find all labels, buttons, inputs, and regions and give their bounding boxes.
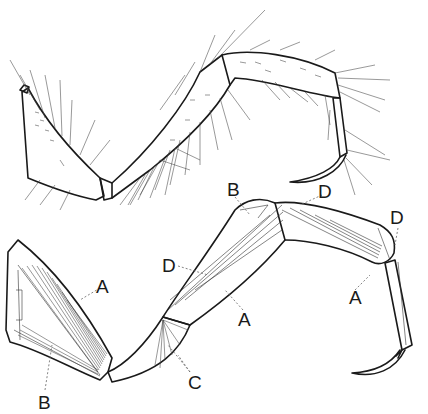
- upper-leg: [10, 10, 390, 210]
- label-c-trochanter: C: [188, 373, 202, 392]
- label-d-tibia-end: D: [390, 208, 404, 227]
- label-a-tibia: A: [349, 288, 362, 307]
- figure: A B C D A B D D A: [0, 0, 428, 414]
- leg-illustration: [0, 0, 428, 414]
- label-a-femur: A: [238, 310, 251, 329]
- label-d-femur: D: [162, 256, 176, 275]
- label-d-tibia-top: D: [318, 182, 332, 201]
- label-b-coxa: B: [38, 393, 51, 412]
- label-a-coxa: A: [96, 277, 109, 296]
- label-b-femur: B: [227, 180, 240, 199]
